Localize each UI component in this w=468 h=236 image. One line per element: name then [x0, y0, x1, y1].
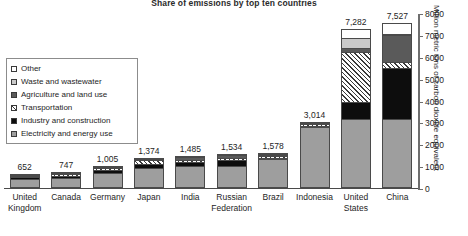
x-axis-label: Indonesia — [296, 192, 333, 203]
bar-brazil[interactable]: 1,578Brazil — [258, 153, 288, 188]
bar-segment — [341, 53, 371, 102]
bar-russian-federation[interactable]: 1,534RussianFederation — [217, 154, 247, 188]
x-axis-label: Brazil — [262, 192, 283, 203]
bar-segment — [341, 103, 371, 121]
bar-united-states[interactable]: 7,282UnitedStates — [341, 29, 371, 188]
chart-title: Share of emissions by top ten countries — [0, 0, 468, 8]
bar-segment — [382, 23, 412, 34]
x-axis-label: India — [181, 192, 199, 203]
bar-segment — [382, 69, 412, 120]
bar-value-label: 3,014 — [304, 110, 325, 120]
emissions-bar-chart: Share of emissions by top ten countries … — [0, 0, 468, 236]
bar-segment — [217, 167, 247, 188]
x-axis-label: China — [386, 192, 408, 203]
x-axis-baseline — [4, 188, 418, 189]
bar-segment — [382, 120, 412, 188]
bar-value-label: 1,374 — [138, 146, 159, 156]
bar-segment — [51, 179, 81, 188]
y-axis-tick — [418, 36, 423, 37]
y-axis-title: Million metric tons of carbon dioxide eq… — [432, 5, 441, 185]
y-axis-tick — [418, 58, 423, 59]
x-axis-label: Japan — [137, 192, 160, 203]
bar-segment — [341, 29, 371, 39]
bar-segment — [134, 169, 164, 188]
x-axis-label: UnitedKingdom — [8, 192, 42, 213]
bar-segment — [341, 120, 371, 188]
x-axis-label: UnitedStates — [344, 192, 369, 213]
bar-value-label: 652 — [18, 162, 32, 172]
plot-area: 652UnitedKingdom747Canada1,005Germany1,3… — [4, 14, 418, 189]
bar-segment — [10, 180, 40, 188]
bar-value-label: 1,485 — [180, 144, 201, 154]
bar-value-label: 1,578 — [262, 141, 283, 151]
bar-value-label: 1,005 — [97, 154, 118, 164]
y-axis-tick — [418, 80, 423, 81]
bar-segment — [175, 167, 205, 188]
bar-united-kingdom[interactable]: 652UnitedKingdom — [10, 174, 40, 188]
y-axis-tick-label: 0 — [425, 184, 430, 194]
bar-value-label: 1,534 — [221, 142, 242, 152]
x-axis-label: RussianFederation — [211, 192, 252, 213]
bar-value-label: 747 — [59, 160, 73, 170]
y-axis-tick — [418, 102, 423, 103]
y-axis-tick — [418, 14, 423, 15]
y-axis-tick — [418, 123, 423, 124]
bar-segment — [341, 39, 371, 50]
x-axis-label: Germany — [90, 192, 125, 203]
bar-segment — [382, 36, 412, 62]
bar-indonesia[interactable]: 3,014Indonesia — [300, 122, 330, 188]
bar-canada[interactable]: 747Canada — [51, 172, 81, 188]
bar-china[interactable]: 7,527China — [382, 23, 412, 188]
bar-japan[interactable]: 1,374Japan — [134, 158, 164, 188]
bar-value-label: 7,282 — [345, 17, 366, 27]
bar-value-label: 7,527 — [387, 11, 408, 21]
bar-india[interactable]: 1,485India — [175, 156, 205, 188]
bar-segment — [93, 174, 123, 188]
y-axis-tick — [418, 167, 423, 168]
y-axis-tick — [418, 145, 423, 146]
x-axis-label: Canada — [51, 192, 81, 203]
bar-segment — [258, 160, 288, 188]
bar-segment — [300, 128, 330, 188]
bar-germany[interactable]: 1,005Germany — [93, 166, 123, 188]
y-axis-tick — [418, 189, 423, 190]
